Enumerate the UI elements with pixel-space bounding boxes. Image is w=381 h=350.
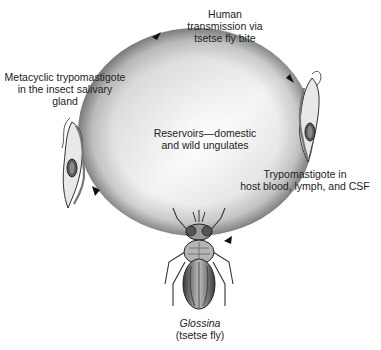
- bloodstream-trypomastigote-label: Trypomastigote in host blood, lymph, and…: [230, 168, 380, 192]
- trypomastigote-icon: [299, 71, 320, 162]
- label-line: host blood, lymph, and CSF: [230, 180, 380, 192]
- arrow-lower-right: [224, 236, 232, 244]
- tsetse-fly-label: Glossina (tsetse fly): [150, 317, 250, 341]
- human-transmission-label: Human transmission via tsetse fly bite: [150, 8, 300, 44]
- genus-name: Glossina: [150, 317, 250, 329]
- common-name: (tsetse fly): [150, 329, 250, 341]
- label-line: transmission via: [150, 20, 300, 32]
- label-line: gland: [0, 95, 130, 107]
- label-line: tsetse fly bite: [150, 32, 300, 44]
- label-line: in the insect salivary: [0, 83, 130, 95]
- metacyclic-trypomastigote-label: Metacyclic trypomastigote in the insect …: [0, 71, 130, 107]
- label-line: Reservoirs—domestic: [130, 127, 280, 139]
- label-line: Metacyclic trypomastigote: [0, 71, 130, 83]
- label-line: Trypomastigote in: [230, 168, 380, 180]
- reservoirs-label: Reservoirs—domestic and wild ungulates: [130, 127, 280, 151]
- label-line: and wild ungulates: [130, 139, 280, 151]
- label-line: Human: [150, 8, 300, 20]
